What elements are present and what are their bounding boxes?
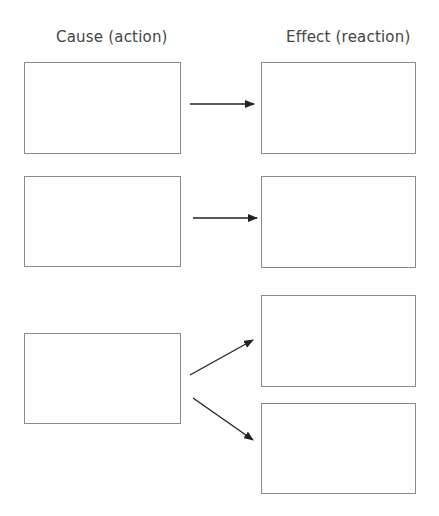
arrow-up-right-icon bbox=[190, 340, 253, 375]
arrow-down-right-icon bbox=[193, 398, 253, 440]
arrows-layer bbox=[0, 0, 439, 516]
